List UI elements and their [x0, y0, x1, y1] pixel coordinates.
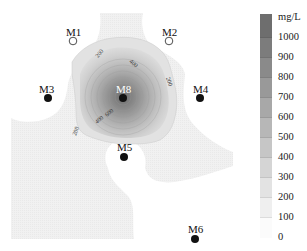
well-m6: M6 — [188, 223, 204, 243]
colorbar-tick-500: 500 — [278, 132, 294, 142]
colorbar-segment — [260, 138, 272, 158]
colorbar-segment — [260, 178, 272, 198]
colorbar-segment — [260, 38, 272, 58]
colorbar-segment — [260, 158, 272, 178]
well-label: M1 — [66, 26, 81, 38]
colorbar — [260, 14, 272, 238]
well-label: M2 — [162, 26, 177, 38]
colorbar-tick-300: 300 — [278, 172, 294, 182]
colorbar-segment — [260, 198, 272, 218]
well-marker-filled — [191, 235, 199, 243]
well-marker-filled — [120, 153, 128, 161]
colorbar-tick-600: 600 — [278, 112, 294, 122]
colorbar-tick-700: 700 — [278, 92, 294, 102]
colorbar-segment — [260, 78, 272, 98]
colorbar-unit: mg/L — [278, 12, 301, 22]
well-label: M4 — [193, 83, 209, 95]
colorbar-segment — [260, 218, 272, 238]
well-marker-filled — [196, 94, 204, 102]
well-label: M5 — [117, 141, 133, 153]
colorbar-tick-900: 900 — [278, 52, 294, 62]
colorbar-tick-1000: 1000 — [278, 32, 299, 42]
well-marker-filled — [44, 94, 52, 102]
colorbar-segment — [260, 98, 272, 118]
well-marker-open — [165, 37, 173, 45]
colorbar-tick-400: 400 — [278, 152, 294, 162]
well-marker-filled — [119, 94, 127, 102]
well-label: M8 — [116, 83, 132, 95]
colorbar-segment — [260, 14, 272, 38]
colorbar-segment — [260, 118, 272, 138]
well-marker-open — [69, 37, 77, 45]
colorbar-tick-200: 200 — [278, 192, 294, 202]
well-label: M3 — [39, 83, 55, 95]
colorbar-segment — [260, 58, 272, 78]
colorbar-tick-100: 100 — [278, 212, 294, 222]
colorbar-tick-0: 0 — [278, 232, 283, 242]
colorbar-tick-800: 800 — [278, 72, 294, 82]
well-label: M6 — [188, 223, 204, 235]
